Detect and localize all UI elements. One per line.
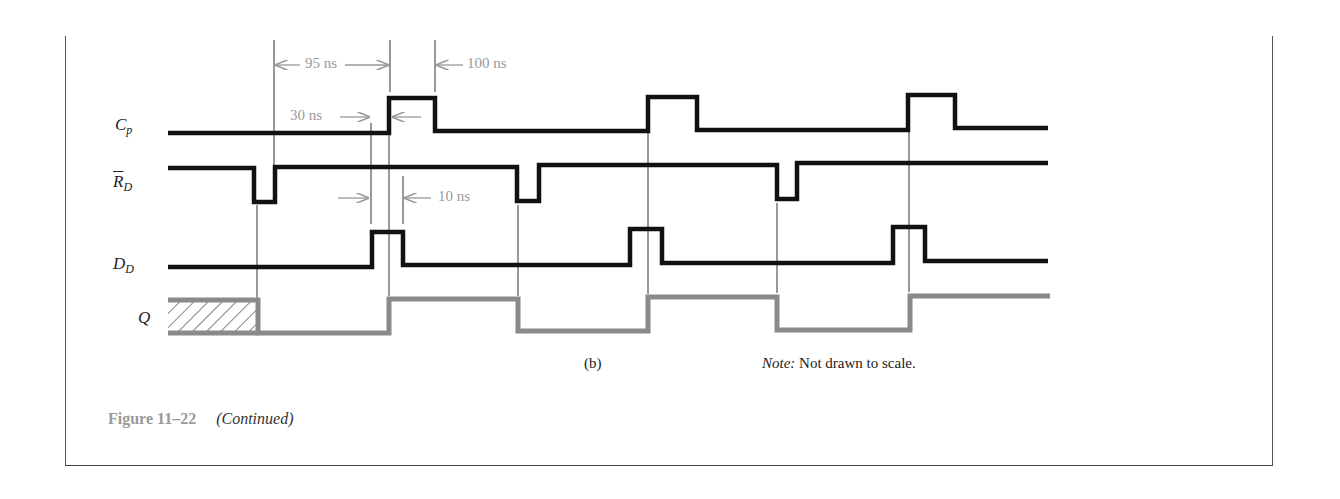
q-unknown-region	[168, 300, 258, 333]
subfigure-label: (b)	[584, 355, 602, 372]
annotation-30ns: 30 ns	[290, 107, 322, 124]
q-label: Q	[138, 308, 150, 328]
note-text: Not drawn to scale.	[795, 355, 915, 371]
figure-number: Figure 11–22	[108, 410, 196, 427]
scale-note: Note: Not drawn to scale.	[762, 355, 916, 372]
note-prefix: Note:	[762, 355, 795, 371]
dd-label: DD	[113, 254, 134, 277]
annotation-95ns: 95 ns	[305, 55, 337, 72]
rd-waveform	[168, 163, 1048, 202]
rd-bar-label: RD	[113, 172, 132, 195]
cp-label: Cp	[115, 115, 132, 138]
figure-caption: Figure 11–22(Continued)	[108, 410, 293, 428]
q-waveform	[168, 296, 1050, 333]
annotation-10ns: 10 ns	[438, 188, 470, 205]
dd-waveform	[168, 227, 1048, 267]
figure-continued: (Continued)	[216, 410, 293, 427]
annotation-100ns: 100 ns	[467, 55, 507, 72]
